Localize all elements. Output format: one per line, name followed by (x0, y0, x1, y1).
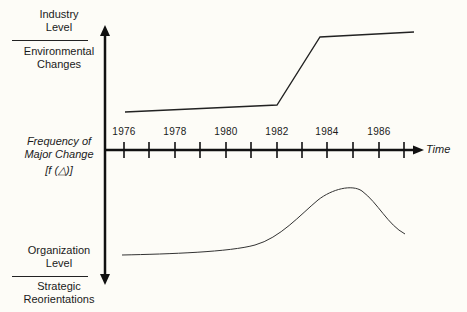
time-axis (105, 142, 424, 158)
environmental-changes-line (125, 32, 414, 112)
arrow-down-icon (100, 274, 110, 285)
diagram-canvas (0, 0, 467, 312)
arrow-right-icon (413, 146, 424, 155)
strategic-reorientations-curve (122, 188, 405, 255)
arrow-up-icon (100, 25, 110, 36)
vertical-axis (100, 25, 110, 285)
